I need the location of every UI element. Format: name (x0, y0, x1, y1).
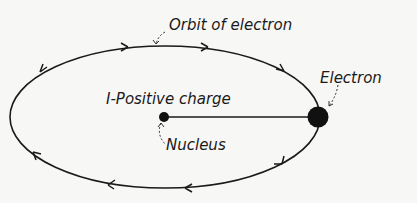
electron-dot (308, 107, 329, 128)
arrowhead-icon (158, 123, 164, 127)
electron-leader-line (329, 85, 338, 106)
nucleus-dot (159, 112, 169, 122)
atom-orbit-diagram: Orbit of electron Electron I-Positive ch… (0, 0, 417, 203)
arrow-icon (121, 43, 128, 51)
electron-label: Electron (320, 69, 382, 87)
arrow-icon (274, 156, 284, 164)
arrow-icon (201, 43, 208, 51)
positive-charge-label: I-Positive charge (106, 90, 231, 108)
arrowhead-icon (153, 40, 159, 44)
orbit-label: Orbit of electron (169, 16, 292, 34)
nucleus-label: Nucleus (166, 136, 226, 154)
nucleus-leader-line (159, 123, 166, 145)
